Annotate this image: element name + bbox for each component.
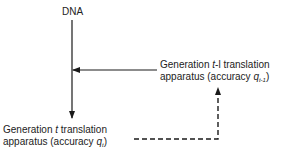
- gen-curr-line2: apparatus (accuracy qt): [3, 136, 107, 151]
- text: ): [266, 71, 269, 82]
- text: Generation: [160, 59, 212, 70]
- text: translation: [221, 59, 270, 70]
- text: apparatus (accuracy: [3, 136, 96, 147]
- gen-prev-line1: Generation t-l translation: [160, 59, 270, 71]
- gen-prev-line2: apparatus (accuracy qt-1): [160, 71, 270, 86]
- dna-label: DNA: [62, 6, 83, 18]
- gen-curr-line1: Generation t translation: [3, 124, 107, 136]
- gen-prev-label: Generation t-l translation apparatus (ac…: [160, 59, 270, 86]
- text: translation: [58, 124, 107, 135]
- text: ): [104, 136, 107, 147]
- feedback-dashed-arrow: [134, 88, 218, 139]
- subscript: t-1: [259, 77, 266, 83]
- text: apparatus (accuracy: [160, 71, 253, 82]
- text: Generation: [3, 124, 55, 135]
- gen-curr-label: Generation t translation apparatus (accu…: [3, 124, 107, 151]
